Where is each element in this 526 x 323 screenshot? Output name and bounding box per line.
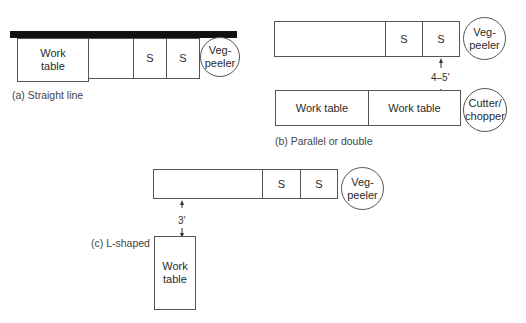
b-caption: (b) Parallel or double (275, 135, 372, 147)
c-veg-peeler: Veg- peeler (341, 167, 384, 210)
a-sink-1: S (133, 38, 167, 79)
a-work-table: Work table (17, 38, 89, 82)
c-caption: (c) L-shaped (91, 237, 150, 249)
c-sink-1: S (262, 169, 301, 199)
a-caption: (a) Straight line (12, 89, 83, 101)
b-drainboard (274, 21, 386, 57)
b-clearance-label: 4–5' (431, 72, 450, 83)
c-work-table: Work table (154, 236, 196, 310)
b-veg-peeler: Veg- peeler (463, 17, 506, 60)
b-sink-2: S (422, 21, 460, 57)
b-sink-1: S (385, 21, 423, 57)
a-veg-peeler: Veg- peeler (200, 37, 240, 77)
b-cutter-chopper: Cutter/ chopper (463, 88, 507, 132)
b-work-table-2: Work table (368, 90, 461, 126)
b-work-table-1: Work table (275, 90, 369, 126)
c-clearance-label: 3' (178, 215, 185, 226)
a-sink-2: S (166, 38, 200, 79)
c-sink-2: S (300, 169, 338, 199)
c-drainboard (153, 169, 263, 199)
wall-line (10, 31, 237, 38)
a-drainboard (88, 38, 134, 79)
